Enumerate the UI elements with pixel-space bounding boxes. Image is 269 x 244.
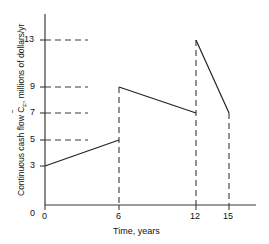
y-tick-label-7: 7 [30, 107, 35, 117]
cash-flow-chart-figure: 13 9 7 5 3 0 0 6 12 15 Continuous cash f… [0, 0, 269, 244]
x-tick-label-15: 15 [223, 211, 233, 221]
y-axis-label-suffix: , millions of dollars/yr [16, 24, 26, 103]
x-tick-label-6: 6 [116, 211, 121, 221]
x-axis-label: Time, years [113, 226, 160, 236]
y-axis-label-symbol: C [16, 107, 26, 113]
y-axis-label-prefix: Continuous cash flow [16, 113, 26, 196]
y-tick-label-3: 3 [30, 160, 35, 170]
y-tick-label-0: 0 [30, 208, 35, 218]
data-segment-1 [45, 140, 119, 166]
y-tick-label-9: 9 [30, 81, 35, 91]
y-tick-label-5: 5 [30, 134, 35, 144]
y-axis-label: Continuous cash flow CF, millions of dol… [16, 24, 28, 196]
x-tick-label-12: 12 [190, 211, 200, 221]
x-tick-label-0: 0 [42, 211, 47, 221]
plot-area [0, 0, 269, 244]
data-segment-3 [196, 40, 229, 113]
data-segment-2 [119, 87, 196, 113]
